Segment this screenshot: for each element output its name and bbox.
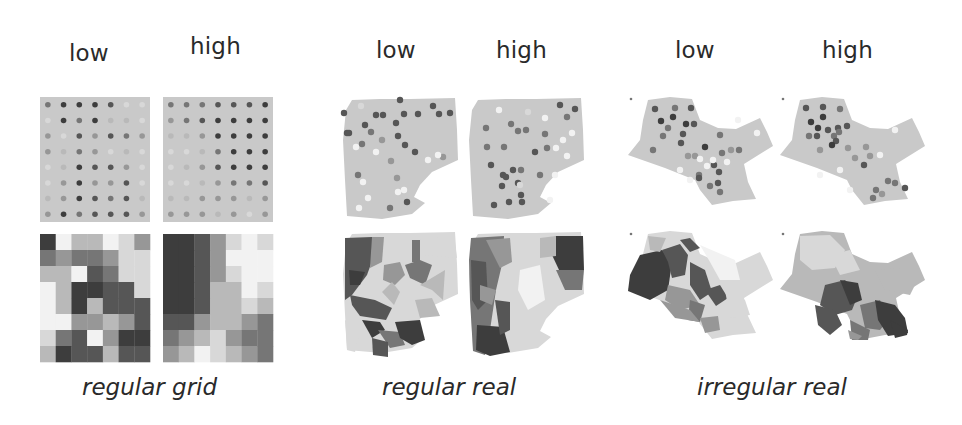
label-irregular-real-high: high [822, 37, 873, 63]
label-regular-grid-high: high [190, 33, 241, 59]
regular-grid-low-points [40, 97, 150, 222]
irregular-real-high-choropleth [780, 231, 925, 340]
caption-irregular-real: irregular real [697, 374, 847, 400]
regular-real-high-points [469, 98, 584, 219]
regular-grid-low-choropleth [40, 234, 150, 362]
regular-grid-high-points [163, 97, 273, 222]
regular-real-high-choropleth [469, 232, 584, 356]
label-regular-grid-low: low [69, 40, 109, 66]
regular-real-low-points [341, 97, 458, 219]
regular-real-low-choropleth [343, 232, 458, 357]
label-irregular-real-low: low [675, 37, 715, 63]
label-regular-real-low: low [376, 37, 416, 63]
caption-regular-grid: regular grid [82, 374, 217, 400]
irregular-real-low-points [628, 97, 773, 205]
irregular-real-low-choropleth [628, 231, 773, 339]
caption-regular-real: regular real [382, 374, 516, 400]
irregular-real-high-points [780, 97, 925, 205]
regular-grid-high-choropleth [163, 234, 273, 362]
label-regular-real-high: high [496, 37, 547, 63]
figure-canvas [0, 0, 962, 425]
